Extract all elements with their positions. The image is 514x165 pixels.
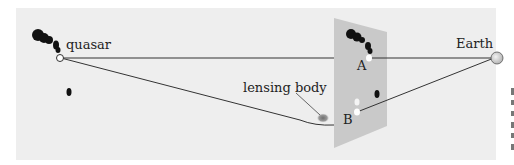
earth-label: Earth [456, 36, 494, 51]
quasar-marker [57, 55, 64, 62]
image-a-point [366, 55, 372, 62]
lensing-body [317, 114, 329, 123]
image-a-label: A [356, 58, 367, 73]
earth-marker [491, 52, 503, 64]
lensing-diagram: quasar Earth lensing body A B [0, 0, 514, 165]
faint-image-blob [355, 99, 360, 106]
image-b-label: B [343, 112, 353, 127]
image-b-point [354, 109, 360, 116]
quasar-label: quasar [66, 37, 112, 52]
stray-blob-left [67, 88, 72, 96]
lensing-body-label: lensing body [243, 80, 327, 95]
image-plane-stray-blob [375, 90, 380, 98]
